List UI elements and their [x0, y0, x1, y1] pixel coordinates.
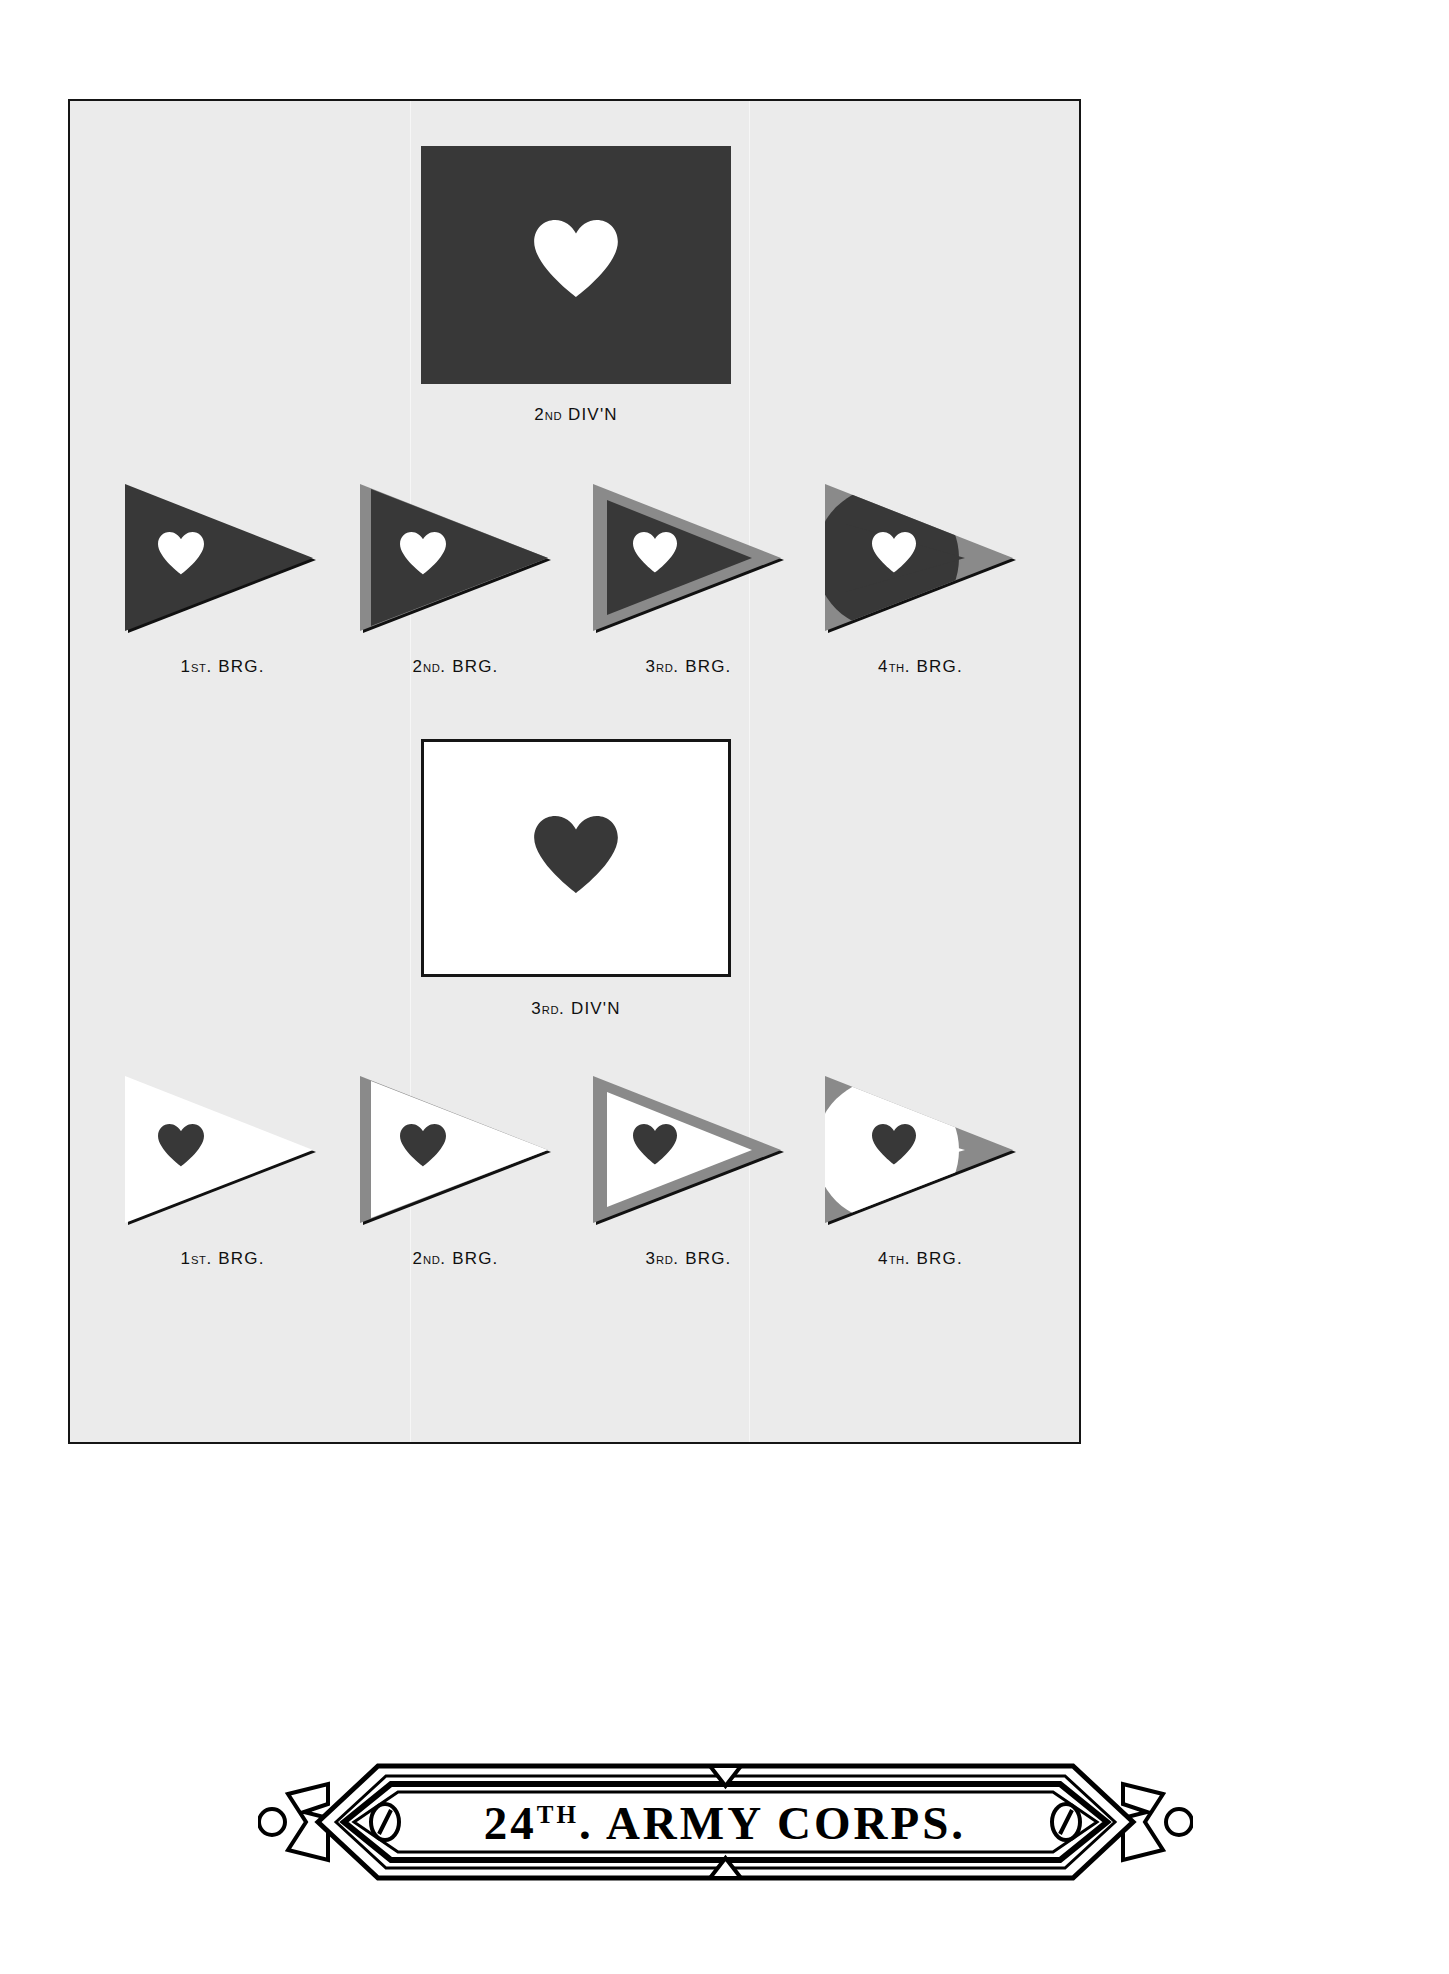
- heart-icon: [534, 816, 618, 900]
- caption-number: 1: [180, 657, 191, 676]
- caption-rest: . BRG.: [440, 657, 498, 676]
- caption-rest: . BRG.: [440, 1249, 498, 1268]
- fold-line: [410, 101, 411, 1442]
- division-caption-2nd: 2ND DIV'N: [421, 405, 731, 425]
- corps-number: 24: [484, 1797, 537, 1849]
- division-caption-3rd: 3RD. DIV'N: [421, 999, 731, 1019]
- caption-number: 4: [878, 657, 889, 676]
- caption-ordinal: ND: [545, 410, 562, 422]
- caption-number: 1: [180, 1249, 191, 1268]
- caption-ordinal: ST: [191, 1254, 206, 1266]
- brigade-caption-3rd-div-4th: 4TH. BRG.: [778, 1249, 1063, 1269]
- corps-title-banner: 24TH. ARMY CORPS.: [258, 1742, 1193, 1902]
- caption-number: 2: [412, 657, 423, 676]
- caption-rest: . BRG.: [673, 1249, 731, 1268]
- caption-number: 3: [645, 657, 656, 676]
- caption-number: 3: [531, 999, 542, 1018]
- division-flag-2nd: [421, 146, 731, 384]
- caption-rest: . BRG.: [206, 1249, 264, 1268]
- caption-ordinal: RD: [656, 662, 673, 674]
- caption-number: 2: [534, 405, 545, 424]
- caption-ordinal: ND: [423, 1254, 440, 1266]
- caption-ordinal: TH: [889, 1254, 905, 1266]
- caption-rest: . DIV'N: [559, 999, 621, 1018]
- caption-ordinal: TH: [889, 662, 905, 674]
- pennant-3rd-div-4th-brg: [825, 1076, 1019, 1232]
- division-flag-3rd: [421, 739, 731, 977]
- caption-ordinal: RD: [656, 1254, 673, 1266]
- plate: 2ND DIV'N 1ST. BRG. 2ND. BRG. 3RD. BRG.: [68, 99, 1081, 1444]
- corps-words: ARMY CORPS.: [594, 1797, 966, 1849]
- corps-ordinal-period: .: [579, 1797, 594, 1849]
- caption-rest: . BRG.: [905, 657, 963, 676]
- pennant-2nd-div-3rd-brg: [593, 484, 787, 640]
- pennant-2nd-div-2nd-brg: [360, 484, 554, 640]
- pennant-3rd-div-2nd-brg: [360, 1076, 554, 1232]
- heart-icon: [534, 220, 618, 304]
- corps-ordinal: TH: [537, 1801, 579, 1828]
- caption-rest: DIV'N: [562, 405, 618, 424]
- caption-rest: . BRG.: [206, 657, 264, 676]
- caption-number: 4: [878, 1249, 889, 1268]
- caption-number: 3: [645, 1249, 656, 1268]
- fold-line: [749, 101, 750, 1442]
- caption-ordinal: RD: [542, 1004, 559, 1016]
- flag-field: [421, 146, 731, 384]
- caption-rest: . BRG.: [905, 1249, 963, 1268]
- caption-ordinal: ST: [191, 662, 206, 674]
- pennant-2nd-div-4th-brg: [825, 484, 1019, 640]
- flag-field: [421, 739, 731, 977]
- brigade-caption-2nd-div-4th: 4TH. BRG.: [778, 657, 1063, 677]
- pennant-2nd-div-1st-brg: [125, 484, 319, 640]
- caption-ordinal: ND: [423, 662, 440, 674]
- caption-rest: . BRG.: [673, 657, 731, 676]
- caption-number: 2: [412, 1249, 423, 1268]
- pennant-3rd-div-3rd-brg: [593, 1076, 787, 1232]
- pennant-3rd-div-1st-brg: [125, 1076, 319, 1232]
